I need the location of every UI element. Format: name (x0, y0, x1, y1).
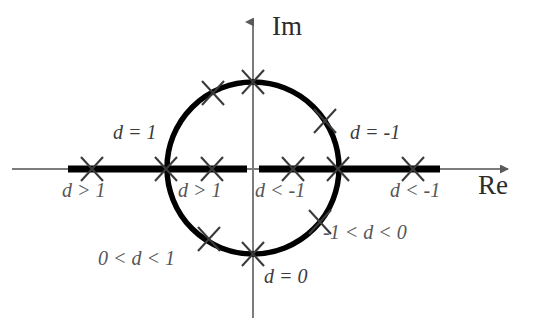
label-d-equals-0: d = 0 (264, 266, 308, 286)
pole-marker-circle-upper-right (314, 109, 336, 133)
imaginary-axis-label: Im (272, 13, 302, 40)
label-d-equals-1: d = 1 (113, 122, 157, 142)
label-0-less-d-less-1: 0 < d < 1 (98, 248, 175, 268)
pole-marker-circle-upper-left (202, 81, 224, 105)
real-axis-label: Re (478, 172, 508, 199)
label-d-equals-minus-1: d = -1 (350, 122, 400, 142)
label-d-greater-1-outer: d > 1 (62, 180, 106, 200)
label-minus-1-less-d-less-0: -1 < d < 0 (323, 222, 407, 242)
label-d-less-minus-1-outer: d < -1 (390, 180, 440, 200)
label-d-greater-1-inner: d > 1 (178, 180, 222, 200)
label-d-less-minus-1-inner: d < -1 (255, 180, 305, 200)
complex-plane-figure: Im Re d > 1 d = 1 d > 1 d < -1 d = -1 d … (0, 0, 534, 331)
